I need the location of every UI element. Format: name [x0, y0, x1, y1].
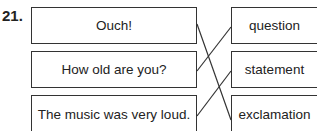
line-ouch-exclamation [197, 24, 231, 120]
connection-lines [0, 0, 317, 131]
line-howold-question [197, 27, 231, 71]
line-music-statement [197, 71, 231, 116]
